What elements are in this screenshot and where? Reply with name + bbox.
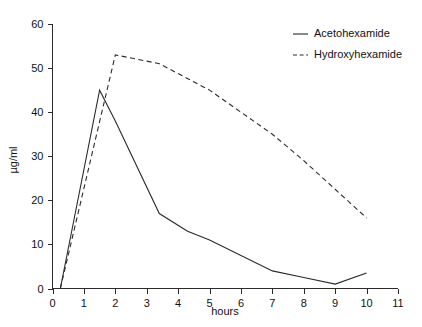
line-chart: 0102030405060 01234567891011 hours µg/ml… <box>0 0 422 327</box>
x-tick-label: 8 <box>301 297 307 309</box>
x-tick-label: 1 <box>81 297 87 309</box>
x-tick-label: 0 <box>49 297 55 309</box>
series-acetohexamide <box>60 90 366 288</box>
y-tick-label: 50 <box>31 62 43 74</box>
x-tick-label: 6 <box>238 297 244 309</box>
chart-container: 0102030405060 01234567891011 hours µg/ml… <box>0 0 422 327</box>
y-tick-label: 20 <box>31 194 43 206</box>
y-axis-ticks: 0102030405060 <box>31 18 52 295</box>
x-tick-label: 3 <box>144 297 150 309</box>
y-tick-label: 0 <box>37 283 43 295</box>
x-tick-label: 11 <box>392 297 403 309</box>
x-tick-label: 2 <box>112 297 118 309</box>
y-tick-label: 30 <box>31 150 43 162</box>
x-tick-label: 7 <box>269 297 275 309</box>
x-axis-title: hours <box>211 305 239 317</box>
series-hydroxyhexamide <box>60 55 366 289</box>
x-tick-label: 10 <box>360 297 372 309</box>
y-tick-label: 10 <box>31 238 43 250</box>
x-tick-label: 9 <box>332 297 338 309</box>
y-axis-title: µg/ml <box>7 146 19 173</box>
chart-legend: AcetohexamideHydroxyhexamide <box>293 27 402 60</box>
y-tick-label: 60 <box>31 18 43 30</box>
legend-label: Acetohexamide <box>314 27 390 39</box>
x-tick-label: 4 <box>175 297 181 309</box>
y-tick-label: 40 <box>31 106 43 118</box>
legend-label: Hydroxyhexamide <box>314 48 402 60</box>
data-series-group <box>60 55 366 289</box>
